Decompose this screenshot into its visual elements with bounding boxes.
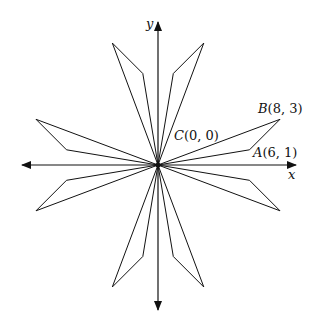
kite-6 (158, 165, 204, 287)
x-axis-label: x (288, 167, 295, 182)
kite-3 (36, 119, 158, 165)
y-axis-label: y (146, 16, 153, 31)
kite-1 (158, 43, 204, 165)
point-label-c: C(0, 0) (174, 128, 219, 143)
kite-4 (36, 165, 158, 211)
origin-point (156, 163, 161, 168)
point-label-b: B(8, 3) (258, 101, 303, 116)
diagram-canvas (0, 0, 313, 325)
kite-2 (112, 43, 158, 165)
point-label-a: A(6, 1) (253, 145, 297, 160)
kite-7 (158, 165, 280, 211)
coordinate-diagram: y x B(8, 3) C(0, 0) A(6, 1) (0, 0, 313, 325)
kite-5 (112, 165, 158, 287)
